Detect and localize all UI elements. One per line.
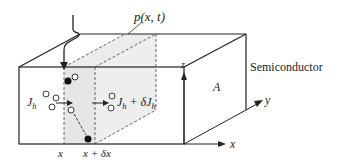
x-arrow-icon (218, 141, 226, 147)
z-axis-label: z (181, 60, 185, 70)
flux-out-suffix: + δJ (127, 95, 152, 109)
electron-dot-bottom (85, 136, 92, 143)
flux-in-subscript: h (32, 102, 36, 111)
flux-out-label: Jh + δJh (117, 96, 156, 112)
material-label: Semiconductor (250, 61, 323, 73)
position-x-label: x (58, 148, 63, 159)
diagram-graphics (0, 0, 337, 160)
z-arrow-icon (181, 72, 187, 80)
x-axis-label: x (230, 138, 235, 150)
y-axis-label: y (265, 94, 270, 106)
y-arrow-icon (254, 100, 263, 107)
area-label: A (213, 81, 220, 93)
concentration-label: p(x, t) (134, 10, 165, 23)
flux-out-suffix-subscript: h (152, 102, 156, 111)
flux-in-label: Jh (27, 96, 37, 112)
semiconductor-diagram: p(x, t) Semiconductor A z y x Jh Jh + δJ… (0, 0, 337, 160)
position-x-plus-dx-label: x + δx (83, 148, 111, 159)
electron-dot-top (65, 78, 72, 85)
